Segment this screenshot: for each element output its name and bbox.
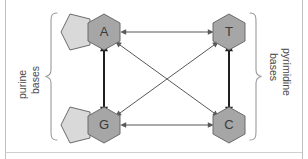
edge-layer bbox=[104, 32, 229, 125]
node-cytosine[interactable]: C bbox=[213, 107, 245, 143]
guanine-label: G bbox=[99, 117, 109, 132]
pyrimidine-bases-label-line1: pyrimidine bbox=[281, 48, 293, 96]
base-pairing-diagram: A T G C purine bases bbox=[0, 0, 308, 159]
node-thymine[interactable]: T bbox=[213, 14, 245, 50]
purine-bases-label-line1: purine bbox=[16, 70, 28, 99]
adenine-pentagon-ring bbox=[61, 14, 90, 50]
purine-bases-label: purine bases bbox=[16, 66, 41, 99]
node-adenine[interactable]: A bbox=[61, 14, 120, 50]
node-guanine[interactable]: G bbox=[61, 107, 120, 143]
pyrimidine-bases-label: pyrimidine bases bbox=[268, 48, 293, 96]
figure-canvas: A T G C purine bases bbox=[0, 0, 308, 159]
cytosine-label: C bbox=[224, 117, 233, 132]
guanine-pentagon-ring bbox=[61, 107, 90, 143]
purine-bases-label-line2: bases bbox=[29, 66, 41, 94]
adenine-label: A bbox=[100, 24, 109, 39]
right-brace bbox=[250, 13, 262, 140]
thymine-label: T bbox=[225, 24, 233, 39]
left-brace bbox=[46, 13, 58, 140]
pyrimidine-bases-label-line2: bases bbox=[268, 53, 280, 81]
